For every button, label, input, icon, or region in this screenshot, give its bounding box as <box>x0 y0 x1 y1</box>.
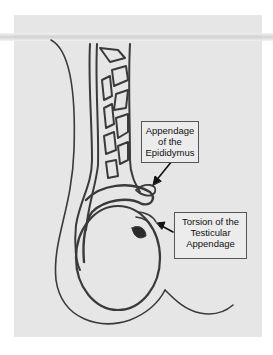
spermatic-cord-right <box>129 44 140 192</box>
label-line: of the <box>142 136 198 147</box>
label-line: Testicular <box>175 227 246 238</box>
label-line: Appendage <box>175 238 246 249</box>
label-line: Torsion of the <box>175 216 246 227</box>
appendage-dark-spot <box>132 226 146 238</box>
label-appendage-of-epididymis: Appendage of the Epididymus <box>141 121 199 163</box>
scrotal-wall-left <box>51 40 165 324</box>
arrow-epididymis-head <box>153 176 161 185</box>
torsed-testicular-appendage <box>136 212 156 228</box>
label-torsion-testicular-appendage: Torsion of the Testicular Appendage <box>174 212 247 259</box>
scrotal-wall-right <box>165 290 233 314</box>
label-line: Appendage <box>142 125 198 136</box>
anatomy-drawing <box>0 0 273 355</box>
epididymis <box>83 185 152 262</box>
label-line: Epididymus <box>142 147 198 158</box>
plexus-network <box>100 48 128 178</box>
